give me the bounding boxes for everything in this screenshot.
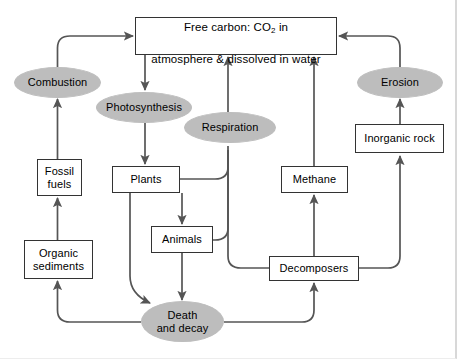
node-decomposers[interactable]: Decomposers: [269, 256, 359, 281]
carbon-cycle-diagram: Free carbon: CO2 in atmosphere & dissolv…: [0, 0, 457, 359]
node-label-methane: Methane: [293, 173, 337, 186]
edge-erosion-to-free-carbon: [339, 36, 400, 67]
node-label-inorganic-rock: Inorganic rock: [364, 132, 435, 145]
edge-decomposers-to-respiration: [228, 150, 269, 268]
node-label-animals: Animals: [162, 233, 202, 246]
node-label-photosynthesis: Photosynthesis: [106, 101, 182, 114]
edge-death-and-decay-to-organic-sediments: [58, 281, 142, 322]
node-death-and-decay[interactable]: Death and decay: [141, 301, 224, 342]
free-carbon-label-line2: atmosphere & dissolved in water: [151, 53, 320, 65]
node-fossil-fuels[interactable]: Fossil fuels: [37, 159, 82, 196]
node-label-respiration: Respiration: [202, 121, 259, 134]
edge-animals-to-respiration: [213, 150, 228, 240]
node-label-death-and-decay: Death and decay: [157, 309, 209, 334]
node-combustion[interactable]: Combustion: [14, 67, 101, 98]
node-label-erosion: Erosion: [381, 76, 419, 89]
node-photosynthesis[interactable]: Photosynthesis: [96, 92, 192, 123]
node-plants[interactable]: Plants: [112, 166, 180, 193]
edge-plants-to-death-and-decay: [130, 193, 150, 303]
node-label-decomposers: Decomposers: [280, 262, 349, 275]
node-label-plants: Plants: [130, 173, 161, 186]
node-label-fossil-fuels: Fossil fuels: [45, 165, 74, 190]
edge-death-and-decay-to-decomposers: [224, 283, 314, 322]
node-methane[interactable]: Methane: [281, 166, 348, 193]
edge-plants-to-respiration: [180, 146, 228, 179]
node-respiration[interactable]: Respiration: [184, 112, 276, 143]
node-label-combustion: Combustion: [28, 76, 88, 89]
edge-decomposers-to-inorganic-rock: [359, 156, 400, 268]
free-carbon-label-line1-tail: in: [276, 21, 288, 33]
node-label-organic-sediments: Organic sediments: [33, 247, 84, 272]
node-organic-sediments[interactable]: Organic sediments: [24, 240, 93, 279]
node-inorganic-rock[interactable]: Inorganic rock: [355, 124, 444, 153]
node-free-carbon[interactable]: Free carbon: CO2 in atmosphere & dissolv…: [135, 17, 337, 55]
node-animals[interactable]: Animals: [151, 226, 213, 253]
node-erosion[interactable]: Erosion: [357, 67, 443, 98]
edge-combustion-to-free-carbon: [58, 36, 134, 67]
free-carbon-label-line1: Free carbon: CO: [184, 21, 271, 33]
